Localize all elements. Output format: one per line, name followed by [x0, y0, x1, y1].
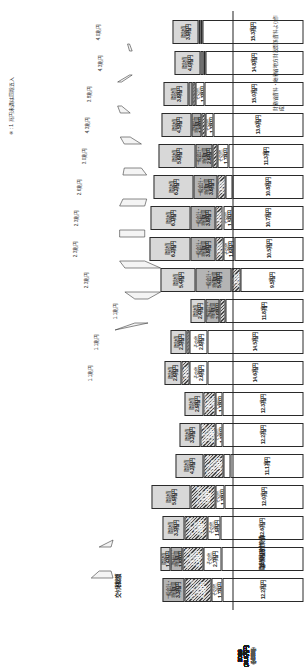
bar-segment[interactable]: 一般会計・特例加算1.5兆円 [191, 113, 201, 137]
bar-segment[interactable]: その他1.9兆円 [207, 516, 220, 540]
bar-segment[interactable]: 臨財債3.9兆円 [172, 20, 198, 44]
bar-segment[interactable] [201, 113, 205, 137]
outer-value-label: 4.0兆円 [94, 18, 100, 46]
bar-segment[interactable]: 一般会計・特例加算2.6兆円 [195, 144, 212, 168]
bar-segment[interactable]: 臨財債4.5兆円 [161, 113, 191, 137]
bar-segment[interactable] [225, 175, 232, 199]
bar-segment[interactable]: 臨財債2.6兆円 [164, 361, 181, 385]
bar-segment[interactable] [188, 82, 192, 106]
bar-segment[interactable]: 臨財債2.3兆円 [170, 330, 185, 354]
bar-segment[interactable]: 10.8兆円 [232, 175, 303, 199]
bar-segment-label: 借入金・特例措置1.3兆円 [181, 362, 190, 384]
bar-segment-label: 一般会計・特例加算2.6兆円 [195, 145, 211, 167]
bar-segment[interactable]: 臨財債3.2兆円 [179, 423, 200, 447]
year-column[interactable]: 12.5兆円その他2.7兆円借入金・特例措置3.2兆円一般会計・特例加算1.8兆… [71, 545, 303, 573]
bar-segment[interactable]: その他1.3兆円 [205, 113, 214, 137]
bar-segment[interactable]: 11.1兆円 [230, 454, 303, 478]
bar-segment[interactable]: 借入金・特例措置1.7兆円 [203, 392, 214, 416]
bar-segment[interactable]: 借入金・特例措置3.1兆円 [203, 454, 223, 478]
bar-segment[interactable]: 11.8兆円 [225, 299, 303, 323]
bar-segment-label: 12.3兆円 [260, 394, 265, 415]
bar-segment[interactable]: 一般会計・特例加算1.8兆円 [170, 547, 182, 571]
bar-segment[interactable]: 臨財債5.9兆円 [151, 485, 190, 509]
bar-segment[interactable]: 15.0兆円 [204, 82, 303, 106]
bar-segment[interactable]: 13.6兆円 [213, 113, 303, 137]
year-column[interactable]: 14.6兆円その他2.6兆円借入金・特例措置1.3兆円臨財債2.6兆円 [71, 359, 303, 387]
bar-segment[interactable]: 一般会計・特例加算2.0兆円 [205, 299, 218, 323]
year-column[interactable]: 10.5兆円その他1.6兆円借入金・特例措置1.2兆円一般会計・特例加算3.8兆… [71, 235, 303, 263]
bar-segment[interactable]: 臨財債4.2兆円 [175, 454, 203, 478]
bar-segment[interactable]: 借入金・特例措置1.3兆円 [181, 361, 190, 385]
bar-segment[interactable]: 10.7兆円 [232, 206, 303, 230]
year-column[interactable]: 14.5兆円その他2.8兆円臨財債2.3兆円 [71, 328, 303, 356]
bar-segment[interactable]: 臨財債6.1兆円 [150, 206, 190, 230]
bar-segment[interactable]: 12.2兆円 [222, 423, 303, 447]
year-column[interactable]: 11.3兆円その他1.7兆円一般会計・特例加算2.6兆円臨財債5.6兆円 [71, 142, 303, 170]
bar-segment[interactable]: その他1.1兆円 [215, 423, 222, 447]
bar-segment[interactable]: その他2.7兆円 [203, 547, 221, 571]
bar-segment-label: 借入金・特例措置3.6兆円 [187, 517, 203, 539]
bar-segment[interactable]: 12.3兆円 [222, 392, 303, 416]
bar-segment[interactable]: 一般会計・特例加算3.3兆円 [162, 578, 184, 602]
bar-segment[interactable]: 一般会計・特例加算3.8兆円 [190, 237, 215, 261]
bar-segment[interactable]: 借入金・特例措置4.2兆円 [184, 578, 212, 602]
bar-segment[interactable]: 臨財債1.4兆円 [160, 547, 169, 571]
year-column[interactable]: 11.1兆円借入金・特例措置3.1兆円臨財債4.2兆円 [71, 452, 303, 480]
bar-segment[interactable]: その他1.3兆円 [215, 485, 224, 509]
bar-segment[interactable]: 臨財債6.2兆円 [149, 237, 190, 261]
bar-segment-label: 一般会計・特例加算3.6兆円 [197, 176, 213, 198]
year-column[interactable]: 12.6兆円その他1.9兆円借入金・特例措置3.6兆円臨財債3.3兆円 [71, 514, 303, 542]
bar-segment[interactable]: 借入金・特例措置3.8兆円 [190, 485, 215, 509]
bar-segment[interactable]: 借入金・特例措置1.2兆円 [217, 175, 225, 199]
bar-segment[interactable] [219, 299, 226, 323]
year-column[interactable]: 9.5兆円借入金・特例措置1.4兆円一般会計・特例加算5.4兆円臨財債5.4兆円 [71, 266, 303, 294]
bar-segment[interactable]: 9.5兆円 [240, 268, 303, 292]
bar-segment[interactable]: 11.3兆円 [228, 144, 303, 168]
year-column[interactable]: 13.6兆円その他1.3兆円一般会計・特例加算1.5兆円臨財債4.5兆円 [71, 111, 303, 139]
year-column[interactable]: 15.0兆円その他1.3兆円臨財債3.8兆円 [71, 80, 303, 108]
bar-segment[interactable]: 10.5兆円 [234, 237, 303, 261]
outer-value-label: 4.3兆円 [96, 49, 102, 77]
bar-segment[interactable]: 臨財債2.9兆円 [184, 392, 203, 416]
bar-segment[interactable]: 借入金・特例措置1.2兆円 [215, 237, 223, 261]
year-column[interactable]: 12.3兆円その他1.1兆円借入金・特例措置1.7兆円臨財債2.9兆円 [71, 390, 303, 418]
bar-segment[interactable]: その他1.7兆円 [217, 144, 228, 168]
bar-segment[interactable]: 14.8兆円 [205, 51, 303, 75]
bar-segment[interactable]: 臨財債3.8兆円 [163, 82, 188, 106]
bar-segment[interactable]: 臨財債4.0兆円 [174, 51, 200, 75]
rotated-figure-wrapper: 12.2兆円その他1.7兆円借入金・特例措置4.2兆円一般会計・特例加算3.3兆… [0, 0, 303, 670]
year-column[interactable]: 14.8兆円臨財債4.0兆円 [71, 49, 303, 77]
bar-segment[interactable]: 一般会計・特例加算3.6兆円 [193, 175, 217, 199]
year-column[interactable]: 11.8兆円一般会計・特例加算2.0兆円臨財債2.4兆円 [71, 297, 303, 325]
bar-segment[interactable]: 一般会計・特例加算3.8兆円 [190, 206, 215, 230]
year-column[interactable]: 12.2兆円その他1.1兆円借入金・特例措置2.3兆円臨財債3.2兆円 [71, 421, 303, 449]
year-column[interactable]: 12.0兆円その他1.3兆円借入金・特例措置3.8兆円臨財債5.9兆円 [71, 483, 303, 511]
bar-segment[interactable]: その他2.8兆円 [189, 330, 207, 354]
bar-segment[interactable] [223, 454, 230, 478]
bar-segment[interactable]: その他1.1兆円 [215, 392, 222, 416]
bar-segment[interactable]: 借入金・特例措置3.2兆円 [182, 547, 203, 571]
bar-segment[interactable]: 借入金・特例措置1.1兆円 [215, 206, 222, 230]
year-column[interactable]: 12.2兆円その他1.7兆円借入金・特例措置4.2兆円一般会計・特例加算3.3兆… [71, 576, 303, 604]
bar-segment[interactable]: その他1.3兆円 [195, 82, 204, 106]
bar-segment[interactable]: 臨財債3.3兆円 [162, 516, 184, 540]
bar-segment[interactable]: 15.3兆円 [202, 20, 303, 44]
bar-segment-label: 借入金・特例措置4.2兆円 [189, 579, 205, 601]
bar-segment[interactable]: 一般会計・特例加算5.4兆円 [195, 268, 231, 292]
bar-segment[interactable]: 臨財債6.2兆円 [153, 175, 194, 199]
bar-segment[interactable]: その他1.5兆円 [223, 206, 233, 230]
bar-segment[interactable]: 14.6兆円 [207, 361, 303, 385]
year-column[interactable]: 10.8兆円借入金・特例措置1.2兆円一般会計・特例加算3.6兆円臨財債6.2兆… [71, 173, 303, 201]
year-column[interactable]: 15.3兆円臨財債3.9兆円 [71, 18, 303, 46]
bar-segment[interactable]: 臨財債5.6兆円 [158, 144, 195, 168]
bar-segment[interactable]: 14.5兆円 [207, 330, 303, 354]
bar-segment[interactable]: 借入金・特例措置2.3兆円 [200, 423, 215, 447]
year-column[interactable]: 10.7兆円その他1.5兆円借入金・特例措置1.1兆円一般会計・特例加算3.8兆… [71, 204, 303, 232]
bar-segment[interactable]: 臨財債5.4兆円 [160, 268, 196, 292]
bar-segment[interactable] [212, 144, 217, 168]
bar-segment[interactable]: 借入金・特例措置3.6兆円 [184, 516, 208, 540]
bar-segment[interactable]: 臨財債2.4兆円 [190, 299, 206, 323]
bar-segment[interactable]: その他2.6兆円 [189, 361, 206, 385]
bar-segment[interactable]: 12.0兆円 [224, 485, 303, 509]
bar-segment[interactable]: その他1.7兆円 [211, 578, 222, 602]
